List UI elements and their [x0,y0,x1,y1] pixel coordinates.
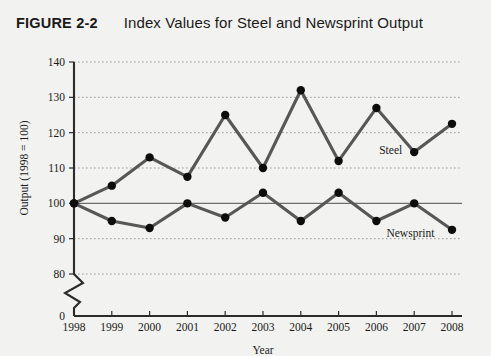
figure-header: FIGURE 2-2 Index Values for Steel and Ne… [16,14,423,31]
x-tick-label-2005: 2005 [327,321,350,333]
x-tick-label-2003: 2003 [252,321,275,333]
series-group [70,86,456,234]
y-tick-label-group: 80901001101201301400 [48,56,66,322]
line-chart: 80901001101201301400 1998199920002001200… [0,44,491,356]
y-tick-label-120: 120 [48,127,66,139]
x-tick-label-2007: 2007 [403,321,426,333]
data-point-steel-2006 [372,104,380,112]
series-line-newsprint [74,193,452,230]
x-tick-label-1998: 1998 [63,321,86,333]
y-tick-label-90: 90 [54,233,66,245]
series-label-newsprint: Newsprint [386,227,435,240]
y-axis-title: Output (1998 = 100) [18,120,31,215]
data-point-newsprint-1999 [108,217,116,225]
x-tick-label-2000: 2000 [138,321,161,333]
y-tick-label-140: 140 [48,56,66,68]
y-tick-label-130: 130 [48,91,66,103]
data-point-steel-1999 [108,181,116,189]
data-point-newsprint-2008 [448,226,456,234]
data-point-newsprint-2006 [372,217,380,225]
data-point-steel-2002 [221,111,229,119]
x-tick-label-2004: 2004 [289,321,312,333]
data-point-newsprint-2002 [221,213,229,221]
x-tick-label-2002: 2002 [214,321,237,333]
data-point-steel-2008 [448,120,456,128]
x-tick-label-2001: 2001 [176,321,199,333]
y-axis-line [65,62,83,316]
data-point-steel-2005 [334,157,342,165]
data-point-steel-2000 [145,153,153,161]
data-point-steel-2007 [410,148,418,156]
data-point-steel-2003 [259,164,267,172]
data-point-newsprint-2004 [297,217,305,225]
series-label-steel: Steel [379,144,402,156]
data-point-newsprint-2005 [334,189,342,197]
series-label-group: SteelNewsprint [379,144,435,240]
x-axis-title: Year [252,344,273,356]
data-point-newsprint-1998 [70,199,78,207]
y-tick-label-80: 80 [54,268,66,280]
data-point-steel-2004 [297,86,305,94]
data-point-newsprint-2001 [183,199,191,207]
figure-title: Index Values for Steel and Newsprint Out… [124,14,423,31]
gridline-group [74,62,462,274]
x-tick-label-group: 1998199920002001200220032004200520062007… [63,321,464,333]
data-point-newsprint-2000 [145,224,153,232]
y-tick-label-100: 100 [48,197,66,209]
x-tick-label-2008: 2008 [441,321,464,333]
x-tick-label-1999: 1999 [100,321,123,333]
data-point-steel-2001 [183,173,191,181]
x-tick-label-2006: 2006 [365,321,388,333]
data-point-newsprint-2007 [410,199,418,207]
chart-plot-area: 80901001101201301400 1998199920002001200… [0,44,491,356]
data-point-newsprint-2003 [259,189,267,197]
figure-number: FIGURE 2-2 [16,15,98,31]
y-tick-label-110: 110 [48,162,65,174]
